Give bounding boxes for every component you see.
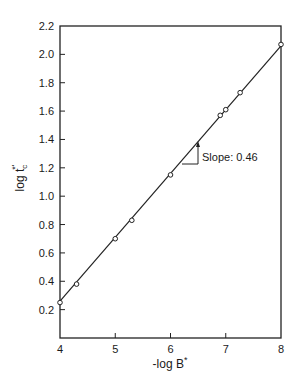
y-tick-label: 0.8 bbox=[39, 219, 54, 231]
data-point bbox=[218, 113, 223, 118]
x-axis-label: -log B* bbox=[153, 355, 188, 371]
y-tick-label: 0.4 bbox=[39, 275, 54, 287]
data-point bbox=[58, 300, 63, 305]
y-tick-label: 0.6 bbox=[39, 247, 54, 259]
x-axis-label-sup: * bbox=[184, 355, 188, 365]
y-tick-label: 2.0 bbox=[39, 48, 54, 60]
y-tick-label: 1.6 bbox=[39, 105, 54, 117]
x-tick-label: 6 bbox=[167, 343, 173, 355]
x-tick-label: 7 bbox=[223, 343, 229, 355]
data-point bbox=[113, 236, 118, 241]
y-tick-label: 1.2 bbox=[39, 162, 54, 174]
data-point bbox=[74, 282, 79, 287]
slope-annotation: Slope: 0.46 bbox=[182, 141, 258, 164]
y-tick-label: 0.2 bbox=[39, 304, 54, 316]
y-tick-label: 2.2 bbox=[39, 20, 54, 32]
data-point bbox=[279, 42, 284, 47]
x-axis-label-text: -log B bbox=[153, 357, 184, 371]
x-axis-ticks: 45678 bbox=[57, 333, 284, 355]
y-tick-label: 1.4 bbox=[39, 133, 54, 145]
y-tick-label: 1.0 bbox=[39, 190, 54, 202]
x-tick-label: 8 bbox=[278, 343, 284, 355]
plot-frame bbox=[60, 26, 281, 338]
data-point bbox=[130, 218, 135, 223]
data-point bbox=[168, 173, 173, 178]
y-tick-label: 1.8 bbox=[39, 77, 54, 89]
slope-label: Slope: 0.46 bbox=[202, 151, 258, 163]
data-point bbox=[238, 90, 243, 95]
x-tick-label: 5 bbox=[112, 343, 118, 355]
y-axis-label-sub: c bbox=[20, 165, 29, 169]
y-axis-ticks: 0.20.40.60.81.01.21.41.61.82.02.2 bbox=[39, 20, 65, 316]
x-tick-label: 4 bbox=[57, 343, 63, 355]
chart: 0.20.40.60.81.01.21.41.61.82.02.2 45678 … bbox=[0, 0, 299, 390]
y-axis-label-sup: *' bbox=[10, 164, 20, 170]
y-axis-label: log tc*' bbox=[10, 164, 29, 191]
data-point bbox=[223, 107, 228, 112]
y-axis-label-text: log t bbox=[13, 168, 27, 191]
